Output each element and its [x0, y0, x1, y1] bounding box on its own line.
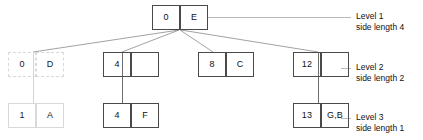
node-8-c-key: 8: [198, 52, 226, 77]
edge-root-to-0d: [33, 30, 179, 52]
node-1-a[interactable]: 1 A: [8, 103, 64, 128]
node-13-gb[interactable]: 13 G,B: [293, 103, 349, 128]
level-1-side: side length 4: [356, 22, 404, 33]
node-4-f-value: F: [131, 103, 159, 128]
node-1-a-value: A: [36, 103, 64, 128]
node-12[interactable]: 12: [293, 52, 349, 77]
node-8-c[interactable]: 8 C: [198, 52, 254, 77]
node-0-d[interactable]: 0 D: [8, 52, 64, 77]
level-1-caption: Level 1 side length 4: [356, 11, 404, 33]
node-4[interactable]: 4: [103, 52, 159, 77]
edge-root-to-8c: [180, 30, 213, 52]
node-root[interactable]: 0 E: [152, 5, 208, 30]
level-2-name: Level 2: [356, 62, 383, 72]
edge-root-to-4: [122, 30, 179, 52]
node-0-d-key: 0: [8, 52, 36, 77]
node-4-f[interactable]: 4 F: [103, 103, 159, 128]
node-4-key: 4: [103, 52, 131, 77]
level-1-name: Level 1: [356, 11, 383, 21]
node-13-gb-value: G,B: [321, 103, 349, 128]
edge-root-to-12: [181, 30, 318, 52]
node-0-d-value: D: [36, 52, 64, 77]
node-1-a-key: 1: [8, 103, 36, 128]
level-2-caption: Level 2 side length 2: [356, 62, 404, 84]
node-13-gb-key: 13: [293, 103, 321, 128]
node-root-value: E: [180, 5, 208, 30]
node-4-value: [131, 52, 159, 77]
node-4-f-key: 4: [103, 103, 131, 128]
node-12-key: 12: [293, 52, 321, 77]
node-root-key: 0: [152, 5, 180, 30]
tree-diagram: 0 E 0 D 4 8 C 12 1 A 4 F 13 G,B Level 1 …: [0, 0, 423, 140]
level-3-side: side length 1: [356, 123, 404, 134]
level-3-caption: Level 3 side length 1: [356, 112, 404, 134]
level-2-side: side length 2: [356, 73, 404, 84]
level-3-name: Level 3: [356, 112, 383, 122]
node-8-c-value: C: [226, 52, 254, 77]
node-12-value: [321, 52, 349, 77]
